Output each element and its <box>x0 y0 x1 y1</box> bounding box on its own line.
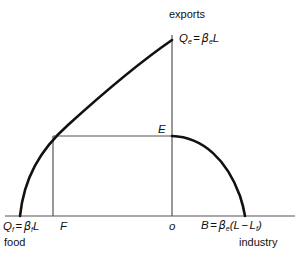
vertical-axis-label: exports <box>169 9 205 20</box>
industry-symbol: B <box>201 219 209 231</box>
peak-symbol-subscript: e <box>188 38 192 45</box>
origin-label: o <box>169 221 175 233</box>
horizontal-axis-right-label: industry <box>239 237 278 248</box>
industry-equals: = <box>209 219 219 231</box>
production-possibility-diagram: exports Qe=βeL E Qf=βfL F o B=βe(L−Lf) f… <box>0 0 302 263</box>
food-variable: L <box>33 220 39 232</box>
peak-symbol: Q <box>179 32 188 44</box>
horizontal-axis-left-label: food <box>4 237 25 248</box>
industry-beta: β <box>218 218 225 232</box>
industry-paren-close: ) <box>258 219 262 231</box>
peak-variable: L <box>213 32 219 44</box>
food-intercept-label: Qf=βfL <box>3 221 39 233</box>
transformation-curve-right <box>172 136 245 216</box>
food-beta: β <box>24 219 31 233</box>
transformation-curve-left <box>20 40 172 216</box>
industry-variable-1: L <box>233 219 239 231</box>
food-equals: = <box>14 220 24 232</box>
peak-beta-subscript: e <box>209 38 213 45</box>
peak-beta: β <box>202 31 209 45</box>
food-symbol: Q <box>3 220 12 232</box>
food-symbol-subscript: f <box>12 226 14 233</box>
equilibrium-point-label: E <box>158 124 166 136</box>
industry-intercept-label: B=βe(L−Lf) <box>201 220 262 232</box>
foot-point-label: F <box>60 221 67 233</box>
food-beta-subscript: f <box>31 226 33 233</box>
peak-equals: = <box>192 32 202 44</box>
peak-point-label: Qe=βeL <box>179 33 219 45</box>
industry-minus: − <box>240 219 250 231</box>
industry-beta-subscript: e <box>226 225 230 232</box>
industry-variable-2-subscript: f <box>256 225 258 232</box>
